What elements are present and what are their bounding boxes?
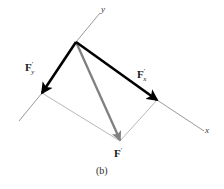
f-resultant-label-prime: ′ (121, 146, 123, 154)
f-y-label-subscript: y (31, 68, 34, 76)
f-x-label-subscript: x (143, 75, 146, 83)
construction-lines-group (42, 93, 157, 141)
y-axis-label: y (101, 5, 105, 14)
resultant-vector-label: F′ (114, 147, 122, 159)
construction-line-from-fy-tip (42, 93, 120, 141)
f-x-component-label: F′x (137, 68, 146, 83)
vector-parallelogram-figure: F′y F′x F′ y x (b) (0, 0, 224, 189)
construction-line-from-fx-tip (120, 100, 157, 141)
vectors-group (42, 42, 157, 140)
f-y-component-vector-arrow (42, 42, 76, 93)
f-resultant-label-base: F (114, 147, 121, 159)
y-axis-line (76, 13, 100, 42)
axis-lines-group (19, 13, 204, 131)
x-axis-positive-line (157, 100, 204, 131)
figure-caption: (b) (96, 166, 108, 176)
x-axis-label: x (205, 126, 209, 135)
f-x-label-prime: ′ (144, 67, 146, 75)
x-axis-negative-line (19, 93, 42, 121)
f-y-label-prime: ′ (32, 60, 34, 68)
vector-diagram-canvas (0, 0, 224, 189)
f-y-component-label: F′y (25, 61, 34, 76)
